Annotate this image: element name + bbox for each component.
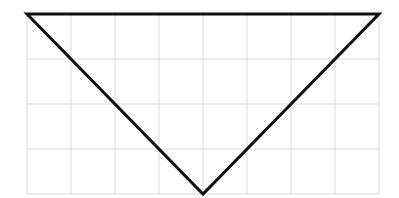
grid-lines [27, 14, 379, 194]
grid-diagram [0, 0, 399, 198]
diagram-svg [0, 0, 399, 198]
